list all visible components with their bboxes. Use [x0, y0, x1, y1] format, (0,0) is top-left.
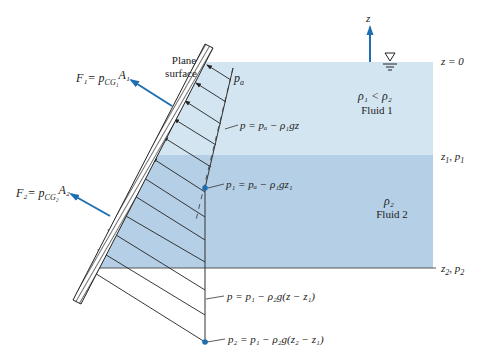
layer1-equation: p = pₐ − ρ₁gz — [239, 119, 300, 131]
p2-equation: p₂ = p₁ − ρ₂g(z₂ − z₁) — [227, 333, 324, 346]
force-f1-label: F₁= pCG₁A₁ — [75, 68, 130, 87]
force-f1-arrow — [131, 80, 172, 106]
rho2-label: ρ₂ — [383, 194, 394, 208]
p1-equation: p₁ = pₐ − ρ₁gz₁ — [225, 178, 293, 190]
p2-point — [202, 339, 208, 345]
plane-surface-label-line1: Plane — [172, 54, 197, 66]
force-f2-label: F₂= pCG₂A₂ — [15, 183, 70, 202]
p1-point — [202, 185, 208, 191]
z2-p2-label: z2, p2 — [440, 262, 464, 277]
hydrostatic-diagram: Plane surface pa z z = 0 z1, p1 z2, p2 ρ… — [0, 0, 479, 360]
z-axis-label: z — [365, 12, 371, 24]
layer2-equation: p = p₁ − ρ₂g(z − z₁) — [226, 290, 315, 303]
density-comparison-label: ρ₁ < ρ₂ — [357, 89, 392, 103]
fluid-1-label: Fluid 1 — [361, 104, 392, 116]
z0-label: z = 0 — [440, 55, 464, 67]
plane-surface-label-line2: surface — [165, 67, 197, 79]
z1-p1-label: z1, p1 — [440, 150, 464, 165]
fluid-2-label: Fluid 2 — [376, 208, 407, 220]
force-f2-arrow — [71, 194, 110, 216]
